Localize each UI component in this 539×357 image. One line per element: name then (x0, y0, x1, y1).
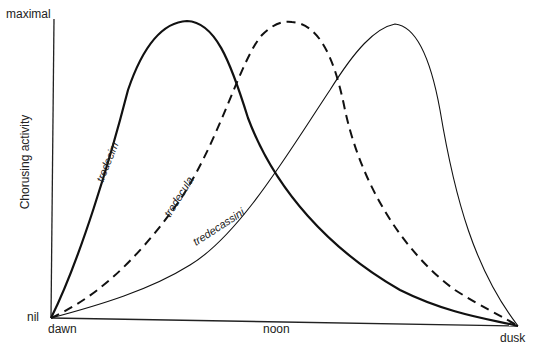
y-axis (51, 19, 54, 318)
tredecula-label: tredecula (162, 174, 196, 219)
tredecassini-label: tredecassini (191, 205, 247, 247)
y-max-label: maximal (6, 7, 51, 21)
x-mid-label: noon (263, 322, 290, 336)
tredecassini-curve (51, 24, 518, 326)
x-start-label: dawn (48, 322, 77, 336)
tredecim-label: tredecim (94, 140, 121, 184)
tredecula-curve (51, 22, 518, 326)
x-end-label: dusk (500, 331, 525, 345)
y-min-label: nil (27, 310, 39, 324)
chart-canvas: tredecim tredecula tredecassini (0, 0, 539, 357)
y-axis-title: Chorusing activity (18, 97, 32, 227)
tredecim-curve (51, 21, 518, 326)
